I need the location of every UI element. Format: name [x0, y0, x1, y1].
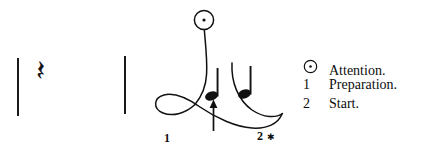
conducting-pattern-figure: 𝄽: [0, 0, 431, 156]
attention-circle-dot-glyph: [303, 59, 318, 74]
beat-1-label: 1: [164, 132, 170, 144]
beat-two-rebound-stroke: [232, 63, 283, 117]
attention-circle-dot-icon: [194, 10, 213, 29]
attention-circle-dot-icon: [303, 56, 329, 75]
beat-one-loop-and-sweep-stroke: [156, 94, 282, 128]
legend-label-start: Start.: [329, 94, 359, 113]
asterisk-icon: ✱: [267, 133, 275, 142]
right-barline: [124, 56, 126, 114]
attention-dot: [202, 18, 205, 21]
beat-2-label: 2: [257, 130, 263, 142]
downbeat-stem-stroke: [195, 30, 207, 105]
legend: Attention. 1 Preparation. 2 Start.: [303, 56, 429, 113]
conducting-pattern-group: 1 2 ✱: [140, 0, 295, 156]
legend-row: 1 Preparation.: [303, 75, 429, 94]
legend-row: Attention.: [303, 56, 429, 75]
digit-one: 1: [303, 75, 329, 94]
music-notation-group: 𝄽: [0, 0, 145, 156]
legend-row: 2 Start.: [303, 94, 429, 113]
legend-label-preparation: Preparation.: [329, 75, 397, 94]
digit-two: 2: [303, 94, 329, 113]
